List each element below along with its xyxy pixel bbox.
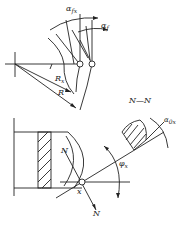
arc-inner [48,38,64,64]
label-x: x [77,188,82,196]
tool-geometry-diagram: αfx αf Rx R N—N α0x N x N φx [0,0,182,225]
point-x [77,61,83,67]
alpha-fx-arrow [50,18,98,30]
label-alpha-f: αf [101,22,109,31]
label-n-top: N [61,147,68,155]
label-alpha-0x: α0x [164,117,176,125]
point-x-bottom [79,179,85,185]
phi-arc [104,146,119,198]
label-n-bottom: N [93,210,100,218]
label-r: R [58,89,64,97]
radius-r [15,64,76,108]
arc-outer [80,40,92,64]
label-rx: Rx [55,75,64,84]
diagram-drawing [0,0,182,225]
point-outer [89,61,95,67]
label-section-nn: N—N [129,97,151,105]
edge-arc-inner [64,136,74,186]
label-phi-x: φx [119,160,128,169]
label-alpha-fx: αfx [66,5,77,14]
